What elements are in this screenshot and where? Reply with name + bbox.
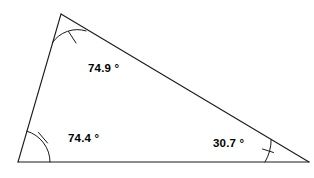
- angle-label-top: 74.9 °: [88, 63, 119, 75]
- triangle-drawing-canvas: [0, 0, 314, 178]
- angle-arc-bottom-left: [27, 131, 50, 162]
- angle-marker-bottom-left: [27, 131, 50, 162]
- angle-arc-top: [52, 30, 86, 43]
- angle-tick-top: [69, 32, 77, 44]
- triangle-figure: 74.9 ° 74.4 ° 30.7 °: [0, 0, 314, 178]
- angle-label-bottom-left: 74.4 °: [68, 133, 99, 145]
- angle-tick-bottom-right: [263, 149, 274, 153]
- angle-marker-bottom-right: [263, 140, 274, 163]
- angle-marker-top: [52, 30, 86, 43]
- angle-label-bottom-right: 30.7 °: [213, 138, 244, 150]
- triangle-side-left: [18, 14, 61, 162]
